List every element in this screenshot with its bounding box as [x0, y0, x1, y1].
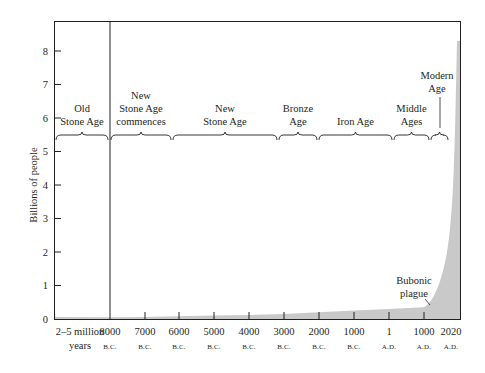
x-tick-sublabel: B.C. [312, 343, 326, 351]
era-brace [56, 132, 108, 140]
era-label: Age [428, 83, 446, 94]
era-label: New [215, 103, 235, 114]
y-tick-label: 6 [43, 113, 48, 124]
x-tick-sublabel: A.D. [417, 343, 431, 351]
x-tick-sublabel: B.C. [172, 343, 186, 351]
x-tick-label: 4000 [239, 326, 260, 337]
era-brace [431, 132, 448, 140]
y-tick-label: 5 [43, 146, 48, 157]
annotation-text: plague [400, 288, 428, 299]
y-tick-label: 4 [43, 180, 49, 191]
x-tick-sublabel: A.D. [382, 343, 396, 351]
x-tick-label: 2000 [309, 326, 330, 337]
x-tick-label: 2–5 million [56, 326, 105, 337]
population-chart: 012345678 2–5 millionyears8000B.C.7000B.… [0, 0, 485, 373]
era-label: Iron Age [337, 116, 374, 127]
x-tick-sublabel: B.C. [103, 343, 117, 351]
era-label: Stone Age [60, 116, 104, 127]
era-label: Bronze [283, 103, 314, 114]
y-tick-label: 1 [43, 280, 48, 291]
y-axis-label: Billions of people [28, 147, 39, 223]
x-tick-label: 7000 [135, 326, 156, 337]
era-brace [279, 132, 317, 140]
era-label: Stone Age [203, 116, 247, 127]
x-tick-sublabel: years [69, 340, 91, 351]
era-label: Ages [401, 116, 423, 127]
annotation-text: Bubonic [396, 275, 432, 286]
y-tick-label: 2 [43, 247, 48, 258]
era-brace [394, 132, 429, 140]
y-axis: 012345678 [43, 46, 61, 325]
x-tick-sublabel: B.C. [347, 343, 361, 351]
era-label: Middle [396, 103, 427, 114]
era-label: Old [74, 103, 91, 114]
x-tick-label: 1 [386, 326, 391, 337]
era-label: Age [289, 116, 307, 127]
x-tick-label: 1000 [414, 326, 435, 337]
x-tick-sublabel: A.D. [444, 343, 458, 351]
y-tick-label: 0 [43, 314, 48, 325]
x-tick-label: 5000 [204, 326, 225, 337]
era-label: Stone Age [119, 103, 163, 114]
x-tick-sublabel: B.C. [277, 343, 291, 351]
era-label: Modern [420, 70, 454, 81]
annotations: Bubonicplague [396, 275, 432, 305]
x-tick-label: 2020 [441, 326, 462, 337]
x-tick-label: 1000 [344, 326, 365, 337]
era-label: commences [116, 116, 166, 127]
era-brace [111, 132, 171, 140]
annotation-pointer [425, 299, 430, 305]
era-brace [173, 132, 277, 140]
x-tick-sublabel: B.C. [242, 343, 256, 351]
x-tick-label: 8000 [100, 326, 121, 337]
era-braces: OldStone AgeNewStone AgecommencesNewSton… [56, 70, 454, 140]
y-tick-label: 8 [43, 46, 48, 57]
x-tick-sublabel: B.C. [138, 343, 152, 351]
x-tick-label: 6000 [169, 326, 190, 337]
y-tick-label: 3 [43, 213, 48, 224]
y-tick-label: 7 [43, 79, 48, 90]
x-tick-sublabel: B.C. [207, 343, 221, 351]
era-brace [319, 132, 392, 140]
x-tick-label: 3000 [274, 326, 295, 337]
era-label: New [131, 90, 151, 101]
